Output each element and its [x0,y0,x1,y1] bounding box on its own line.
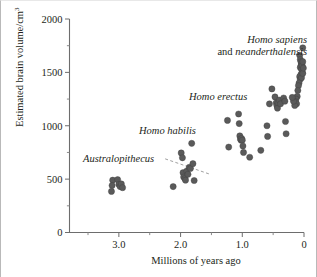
x-axis-tick-labels: 3.02.01.00 [112,239,306,250]
y-axis-label: Estimated brain volume/cm3 [13,0,26,157]
data-point [258,147,264,153]
data-point [240,143,246,149]
y-tick-label: 1000 [42,121,63,132]
data-point [189,140,195,146]
chart-figure: 2000150010005000 3.02.01.00 Estimated br… [0,0,317,277]
data-point [289,94,295,100]
data-point [239,137,245,143]
data-point [108,188,114,194]
y-axis-ticks [65,19,70,233]
x-tick-label: 3.0 [112,239,125,250]
data-point [282,98,288,104]
x-axis-ticks [88,233,304,238]
data-point [109,182,115,188]
data-point [185,171,191,177]
data-point [240,149,246,155]
x-tick-label: 2.0 [174,239,187,250]
series-homo-habilis [170,140,197,189]
annotation-australopithecus: Australopithecus [83,153,154,165]
y-axis-label-superscript: 3 [13,7,21,11]
x-axis-label: Millions of years ago [81,255,311,266]
data-point [266,101,272,107]
series-australopithecus [108,177,125,195]
data-point [235,111,241,117]
x-tick-label: 0 [301,239,306,250]
data-point [300,65,306,71]
y-axis-tick-labels: 2000150010005000 [42,14,63,239]
data-point [283,131,289,137]
y-tick-label: 0 [57,227,62,238]
data-point [264,123,270,129]
y-tick-label: 2000 [42,14,63,25]
data-point [247,154,253,160]
data-point [179,155,185,161]
annotation-sapiens-line1: Homo sapiens [247,34,307,45]
data-point [269,86,275,92]
data-point [300,59,306,65]
data-point [264,133,270,139]
annotation-homo-habilis: Homo habilis [139,125,196,137]
data-point [191,177,197,183]
data-point [236,121,242,127]
y-axis-label-text: Estimated brain volume/cm [14,11,25,127]
data-point [295,87,301,93]
y-tick-label: 500 [47,174,63,185]
data-point [119,185,125,191]
scatter-points [108,45,306,195]
data-point [226,144,232,150]
data-point [190,161,196,167]
data-point [224,117,230,123]
annotation-homo-erectus: Homo erectus [189,91,247,103]
x-tick-label: 1.0 [236,239,249,250]
y-tick-label: 1500 [42,67,63,78]
annotation-sapiens-line2: neanderthalensis [235,46,307,57]
data-point [182,177,188,183]
data-point [170,184,176,190]
data-point [282,118,288,124]
annotation-sapiens-and: and [217,46,235,57]
annotation-homo-sapiens: Homo sapiensand neanderthalensis [187,34,307,58]
